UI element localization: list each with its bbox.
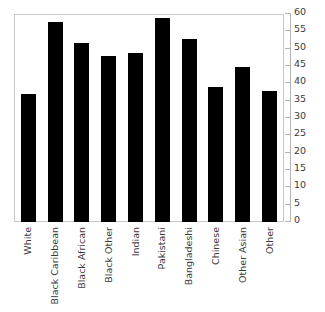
y-axis-tick-label: 50 <box>294 42 306 52</box>
bar-chart: 051015202530354045505560 WhiteBlack Cari… <box>0 0 325 312</box>
x-axis-label-slot: Bangladeshi <box>176 224 203 312</box>
y-axis: 051015202530354045505560 <box>284 14 325 223</box>
bar <box>208 87 223 222</box>
x-axis-label: Black Caribbean <box>50 227 60 304</box>
y-axis-tick-label: 40 <box>294 76 306 86</box>
bar-slot <box>256 15 283 222</box>
bar-slot <box>15 15 42 222</box>
x-axis-label-slot: Other Asian <box>229 224 256 312</box>
y-axis-tick-label: 45 <box>294 59 306 69</box>
bar-slot <box>176 15 203 222</box>
bar-slot <box>95 15 122 222</box>
bar-slot <box>229 15 256 222</box>
x-axis-label: Black Other <box>104 227 114 283</box>
x-axis-label-slot: Black African <box>69 224 96 312</box>
y-axis-tick-mark <box>285 221 291 222</box>
y-axis-tick-mark <box>285 204 291 205</box>
y-axis-tick-mark <box>285 169 291 170</box>
x-axis-label: Indian <box>131 227 141 256</box>
y-axis-tick-mark <box>285 186 291 187</box>
bar-slot <box>149 15 176 222</box>
y-axis-tick-mark <box>285 30 291 31</box>
x-axis-label: Pakistani <box>157 227 167 269</box>
x-axis-label-slot: Black Other <box>95 224 122 312</box>
x-axis-label: Bangladeshi <box>184 227 194 285</box>
x-axis-label-slot: Black Caribbean <box>42 224 69 312</box>
y-axis-tick-label: 20 <box>294 146 306 156</box>
y-axis-tick-label: 5 <box>294 198 300 208</box>
y-axis-tick-mark <box>285 82 291 83</box>
bar <box>262 91 277 222</box>
y-axis-line <box>290 14 291 222</box>
y-axis-tick-label: 25 <box>294 128 306 138</box>
y-axis-tick-label: 10 <box>294 180 306 190</box>
bars-container <box>15 15 283 222</box>
y-axis-tick-mark <box>285 152 291 153</box>
x-axis-label: Chinese <box>211 227 221 265</box>
chart-title <box>14 0 284 5</box>
x-axis-label: Other <box>265 227 275 254</box>
x-axis-label-slot: Chinese <box>203 224 230 312</box>
x-axis-label-slot: Other <box>256 224 283 312</box>
bar-slot <box>203 15 230 222</box>
bar <box>48 22 63 222</box>
y-axis-tick-mark <box>285 100 291 101</box>
x-axis-label-slot: White <box>15 224 42 312</box>
x-axis-label-slot: Indian <box>122 224 149 312</box>
y-axis-tick-label: 15 <box>294 163 306 173</box>
y-axis-tick-mark <box>285 65 291 66</box>
y-axis-tick-mark <box>285 134 291 135</box>
x-axis-label-slot: Pakistani <box>149 224 176 312</box>
bar <box>182 39 197 222</box>
bar <box>101 56 116 222</box>
y-axis-tick-label: 0 <box>294 215 300 225</box>
bar <box>74 43 89 222</box>
bar <box>235 67 250 222</box>
bar-slot <box>42 15 69 222</box>
y-axis-tick-label: 55 <box>294 24 306 34</box>
x-axis-label: Black African <box>77 227 87 289</box>
bar <box>21 94 36 222</box>
y-axis-tick-mark <box>285 13 291 14</box>
bar-slot <box>69 15 96 222</box>
y-axis-tick-label: 30 <box>294 111 306 121</box>
x-axis-label: White <box>23 227 33 255</box>
bar <box>155 18 170 222</box>
y-axis-tick-label: 35 <box>294 94 306 104</box>
x-axis-labels: WhiteBlack CaribbeanBlack AfricanBlack O… <box>15 224 283 312</box>
y-axis-tick-mark <box>285 117 291 118</box>
bar <box>128 53 143 222</box>
bar-slot <box>122 15 149 222</box>
x-axis-label: Other Asian <box>238 227 248 283</box>
y-axis-tick-label: 60 <box>294 7 306 17</box>
y-axis-tick-mark <box>285 48 291 49</box>
